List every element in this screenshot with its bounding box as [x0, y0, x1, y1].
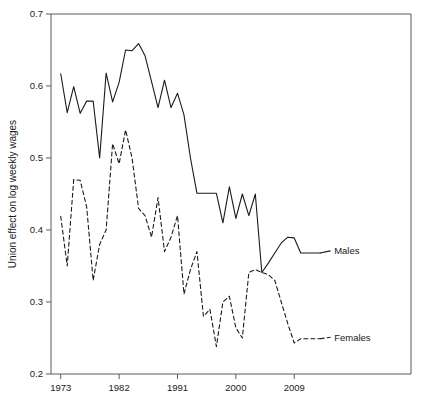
males-label: Males — [334, 245, 360, 256]
chart-root: 0.20.30.40.50.60.7 19731982199120002009 … — [0, 0, 421, 412]
x-tick-label: 1982 — [109, 382, 130, 393]
y-axis-label: Union effect on log weekly wages — [7, 120, 18, 268]
y-tick-label: 0.5 — [30, 152, 43, 163]
x-tick-label: 2000 — [225, 382, 246, 393]
y-tick-label: 0.2 — [30, 368, 43, 379]
x-tick-label: 2009 — [284, 382, 305, 393]
line-chart: 0.20.30.40.50.60.7 19731982199120002009 … — [0, 0, 421, 412]
y-tick-label: 0.4 — [30, 224, 43, 235]
x-tick-label: 1973 — [50, 382, 71, 393]
females-label: Females — [334, 332, 371, 343]
y-tick-label: 0.6 — [30, 80, 43, 91]
chart-background — [0, 0, 421, 412]
x-tick-label: 1991 — [167, 382, 188, 393]
y-tick-label: 0.7 — [30, 8, 43, 19]
y-tick-label: 0.3 — [30, 296, 43, 307]
